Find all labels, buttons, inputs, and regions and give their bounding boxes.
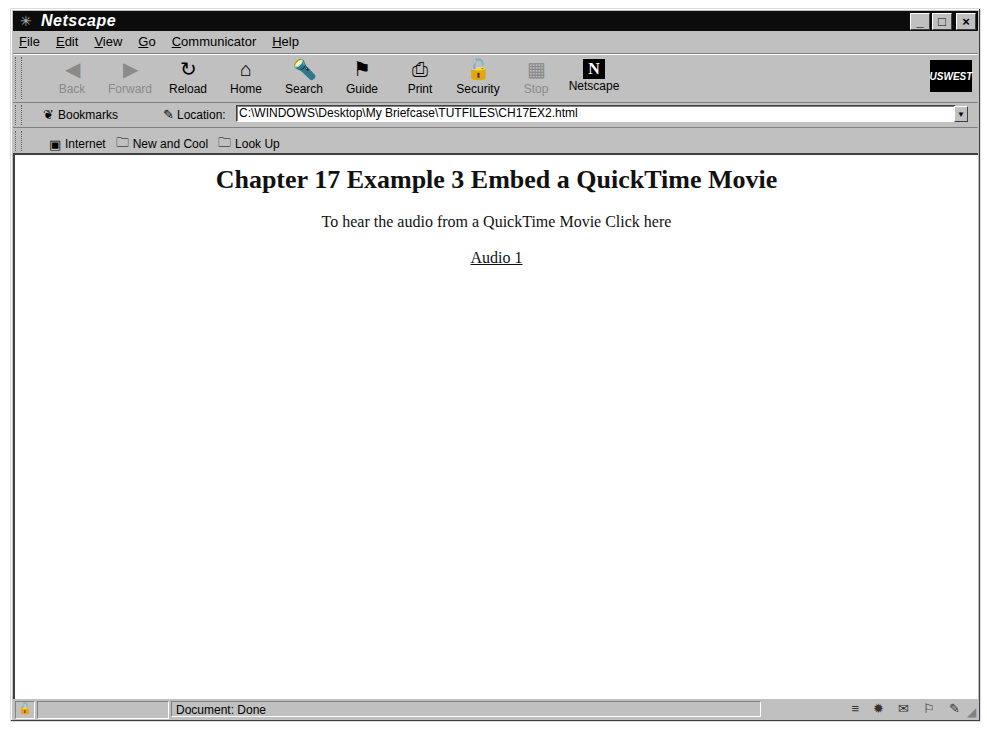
composer-icon[interactable]: ✎ [949,701,960,716]
page-intro-text: To hear the audio from a QuickTime Movie… [15,213,978,231]
status-bar: 🔓 Document: Done ≡ ✹ ✉ ⚐ ✎ ◢ [13,700,978,719]
minimize-icon: _ [916,14,923,29]
reload-label: Reload [169,82,207,96]
progress-bar [37,701,169,719]
location-toolbar-grip[interactable] [15,105,22,125]
page-proxy-icon[interactable]: ✎ [163,107,174,122]
folder-icon: 🗀 [218,133,231,155]
stop-button[interactable]: ▦ Stop [507,56,565,100]
location-label: Location: [177,108,226,122]
menu-file[interactable]: File [19,34,40,49]
netscape-app-icon: ✳ [17,13,35,29]
menu-edit[interactable]: Edit [56,34,78,49]
bookmarks-label: Bookmarks [58,108,118,122]
search-label: Search [285,82,323,96]
new-and-cool-label: New and Cool [133,137,208,151]
page-content: Chapter 17 Example 3 Embed a QuickTime M… [13,155,978,699]
personal-toolbar-grip[interactable] [15,131,22,151]
stop-icon: ▦ [522,56,550,82]
bookmarks-icon: ❦ [43,107,54,122]
back-arrow-icon: ◀ [58,56,86,82]
navigator-icon[interactable]: ✹ [873,701,884,716]
print-icon: ⎙ [406,56,434,82]
component-bar: ≡ ✹ ✉ ⚐ ✎ [851,701,960,716]
location-toolbar: ❦ Bookmarks ✎ Location: ▼ [13,103,978,128]
minimize-button[interactable]: _ [910,13,930,30]
close-icon: × [962,14,970,29]
internet-link[interactable]: ▣ Internet [49,137,106,152]
print-button[interactable]: ⎙ Print [391,56,449,100]
component-bar-grip-icon[interactable]: ≡ [851,701,859,716]
guide-button[interactable]: ⚑ Guide [333,56,391,100]
guide-icon: ⚑ [348,56,376,82]
home-label: Home [230,82,262,96]
security-lock-icon: 🔓 [464,56,492,82]
personal-toolbar: ▣ Internet 🗀 New and Cool 🗀 Look Up [13,129,978,155]
print-label: Print [408,82,433,96]
menu-view[interactable]: View [94,34,122,49]
home-icon: ⌂ [232,56,260,82]
forward-label: Forward [108,82,152,96]
location-url-input[interactable] [236,105,956,122]
back-label: Back [59,82,86,96]
security-button[interactable]: 🔓 Security [449,56,507,100]
menu-bar: File Edit View Go Communicator Help [13,32,978,51]
maximize-button[interactable]: □ [932,13,952,30]
location-dropdown-button[interactable]: ▼ [954,106,968,122]
browser-window: ✳ Netscape _ □ × File Edit View Go Commu… [10,8,981,722]
search-icon: 🔦 [290,56,318,82]
maximize-icon: □ [938,14,946,29]
netscape-button[interactable]: N Netscape [565,56,623,100]
resize-grip-icon[interactable]: ◢ [967,705,976,719]
guide-label: Guide [346,82,378,96]
back-button[interactable]: ◀ Back [43,56,101,100]
netscape-n-icon: N [583,59,605,79]
bookmarks-button[interactable]: ❦ Bookmarks [43,107,118,122]
window-title: Netscape [41,12,116,30]
status-text: Document: Done [171,701,761,717]
location-label-group: ✎ Location: [163,107,226,122]
folder-icon: 🗀 [116,133,129,155]
security-status-icon[interactable]: 🔓 [15,701,35,719]
stop-label: Stop [524,82,549,96]
reload-icon: ↻ [174,56,202,82]
close-button[interactable]: × [956,13,976,30]
look-up-folder[interactable]: 🗀 Look Up [218,133,280,155]
home-button[interactable]: ⌂ Home [217,56,275,100]
internet-label: Internet [65,137,106,151]
menu-communicator[interactable]: Communicator [172,34,257,49]
look-up-label: Look Up [235,137,280,151]
security-label: Security [456,82,499,96]
netscape-label: Netscape [569,79,620,93]
new-and-cool-folder[interactable]: 🗀 New and Cool [116,133,208,155]
menu-help[interactable]: Help [272,34,299,49]
forward-arrow-icon: ▶ [116,56,144,82]
toolbar-grip-handle[interactable] [15,57,22,99]
discussions-icon[interactable]: ⚐ [923,701,935,716]
reload-button[interactable]: ↻ Reload [159,56,217,100]
mail-icon[interactable]: ✉ [898,701,909,716]
menu-go[interactable]: Go [138,34,155,49]
navigation-toolbar: ◀ Back ▶ Forward ↻ Reload ⌂ Home 🔦 Searc… [13,53,978,103]
page-heading: Chapter 17 Example 3 Embed a QuickTime M… [15,165,978,195]
chevron-down-icon: ▼ [957,110,965,119]
uswest-logo[interactable]: USWEST [930,60,972,92]
title-bar[interactable]: ✳ Netscape _ □ × [13,11,978,31]
search-button[interactable]: 🔦 Search [275,56,333,100]
audio-1-link[interactable]: Audio 1 [471,249,523,266]
forward-button[interactable]: ▶ Forward [101,56,159,100]
netscape-page-icon: ▣ [49,137,61,152]
